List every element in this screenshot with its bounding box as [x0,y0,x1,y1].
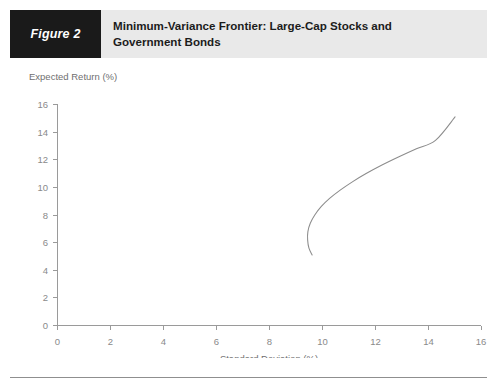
x-tick-label: 16 [476,336,487,347]
x-axis-ticks [58,326,482,331]
figure-title-line-2: Government Bonds [113,34,473,50]
y-axis-ticks [53,105,58,326]
y-tick-label: 4 [43,265,48,276]
x-tick-label: 14 [423,336,434,347]
x-axis-tick-labels: 0 2 4 6 8 10 12 14 16 [55,336,486,347]
y-tick-label: 10 [37,182,48,193]
figure-container: Figure 2 Minimum-Variance Frontier: Larg… [0,0,497,386]
frontier-curve [308,117,456,255]
y-axis-tick-labels: 0 2 4 6 8 10 12 14 16 [37,99,48,331]
x-tick-label: 0 [55,336,60,347]
y-tick-label: 6 [43,237,48,248]
x-tick-label: 12 [370,336,381,347]
footer-divider [10,377,487,378]
x-tick-label: 4 [161,336,166,347]
figure-number-label: Figure 2 [30,27,80,41]
x-tick-label: 6 [214,336,219,347]
y-tick-label: 0 [43,320,48,331]
y-tick-label: 12 [37,154,48,165]
y-tick-label: 2 [43,292,48,303]
chart-plot-area: Expected Return (%) 0 2 4 6 8 [0,58,497,358]
x-tick-label: 10 [317,336,328,347]
x-tick-label: 2 [108,336,113,347]
figure-number-badge: Figure 2 [10,10,101,58]
figure-title: Minimum-Variance Frontier: Large-Cap Sto… [113,10,473,58]
y-tick-label: 14 [37,127,48,138]
x-axis-title: Standard Deviation (%) [220,353,318,358]
y-tick-label: 16 [37,99,48,110]
minimum-variance-frontier-chart: Expected Return (%) 0 2 4 6 8 [0,58,497,358]
axis-spines [58,104,482,326]
x-tick-label: 8 [267,336,272,347]
y-axis-title: Expected Return (%) [29,71,117,82]
figure-title-line-1: Minimum-Variance Frontier: Large-Cap Sto… [113,18,473,34]
y-tick-label: 8 [43,210,48,221]
